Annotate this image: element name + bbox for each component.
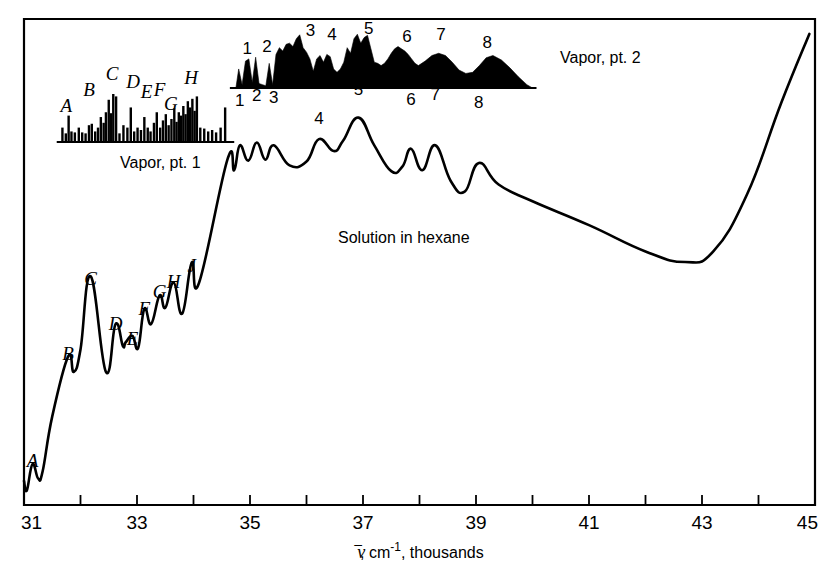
spectrum-figure: ABCDEFGH12345678ABCDEFGHJ12345678 313335… bbox=[0, 0, 839, 568]
solution-peak-label: F bbox=[138, 298, 151, 319]
x-tick-label: 31 bbox=[21, 512, 42, 533]
vapor-pt2-peak-label: 7 bbox=[436, 25, 445, 44]
vapor-pt2-peak-label: 4 bbox=[327, 25, 336, 44]
solution-peak-label: H bbox=[166, 271, 182, 292]
x-tick-label: 37 bbox=[352, 512, 373, 533]
vapor-pt2-peak-label: 2 bbox=[262, 37, 271, 56]
axis-tick-labels: 3133353739414345 bbox=[21, 512, 818, 533]
solution-peak-label: A bbox=[25, 450, 39, 471]
solution-peak-label: D bbox=[108, 313, 123, 334]
vapor-pt2-peak-label: 3 bbox=[306, 21, 315, 40]
solution-line-series bbox=[24, 34, 809, 491]
solution-peak-label: 3 bbox=[269, 88, 278, 107]
vapor-pt1-peak-label: G bbox=[164, 93, 178, 114]
vapor-pt2-peak-label: 6 bbox=[402, 27, 411, 46]
x-axis-label-text: ν–, cm-1, thousands bbox=[354, 536, 483, 562]
solution-curve bbox=[24, 34, 809, 491]
vapor-pt2-label: Vapor, pt. 2 bbox=[560, 49, 641, 66]
vapor-pt1-peak-label: E bbox=[140, 81, 153, 102]
vapor-pt2-peak-label: 1 bbox=[242, 39, 251, 58]
axis-ticks bbox=[81, 495, 759, 505]
solution-peak-label: 2 bbox=[252, 86, 261, 105]
solution-peak-label: 6 bbox=[406, 90, 415, 109]
vapor-pt1-label: Vapor, pt. 1 bbox=[120, 154, 201, 171]
x-tick-label: 41 bbox=[578, 512, 599, 533]
solution-peak-label: E bbox=[126, 328, 139, 349]
solution-peak-label: B bbox=[62, 343, 74, 364]
vapor-pt2-peak-label: 8 bbox=[483, 33, 492, 52]
solution-label: Solution in hexane bbox=[338, 229, 470, 246]
x-tick-label: 33 bbox=[126, 512, 147, 533]
x-tick-label: 39 bbox=[465, 512, 486, 533]
x-tick-label: 45 bbox=[797, 512, 818, 533]
x-tick-label: 43 bbox=[691, 512, 712, 533]
vapor-pt2-peak-label: 5 bbox=[364, 19, 373, 38]
vapor-pt1-peak-label: C bbox=[106, 63, 119, 84]
vapor-pt1-peak-label: B bbox=[83, 79, 95, 100]
vapor-pt1-peak-label: A bbox=[59, 95, 73, 116]
solution-peak-label: G bbox=[153, 281, 167, 302]
solution-peak-label: 8 bbox=[474, 93, 483, 112]
spectrum-plot: ABCDEFGH12345678ABCDEFGHJ12345678 313335… bbox=[0, 0, 839, 568]
x-tick-label: 35 bbox=[239, 512, 260, 533]
solution-peak-label: C bbox=[84, 268, 97, 289]
solution-peak-label: 7 bbox=[431, 85, 440, 104]
vapor-pt1-peak-label: H bbox=[183, 67, 199, 88]
x-axis-label: ν–, cm-1, thousands bbox=[354, 536, 483, 562]
vapor-pt1-peak-label: D bbox=[125, 71, 140, 92]
solution-peak-label: 1 bbox=[235, 91, 244, 110]
solution-peak-label: J bbox=[188, 255, 198, 276]
solution-peak-label: 5 bbox=[354, 80, 363, 99]
solution-peak-label: 4 bbox=[314, 109, 323, 128]
